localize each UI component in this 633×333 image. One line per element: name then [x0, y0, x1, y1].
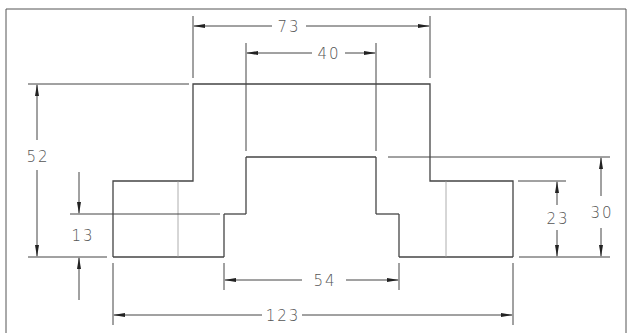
- part-outline: [113, 84, 513, 257]
- dim-right-height: 30: [590, 204, 613, 222]
- thin-lines: [178, 181, 446, 257]
- dim-overall-width: 123: [266, 307, 301, 325]
- dim-top-width: 73: [277, 18, 300, 36]
- dim-inner-top-width: 40: [317, 45, 340, 63]
- dim-right-step-height: 23: [546, 210, 569, 228]
- technical-drawing: 73 40 52 13 54 123 23 30: [0, 0, 633, 333]
- dim-base-inner-width: 54: [313, 272, 336, 290]
- dim-total-height: 52: [26, 148, 49, 166]
- dim-step-height: 13: [71, 227, 94, 245]
